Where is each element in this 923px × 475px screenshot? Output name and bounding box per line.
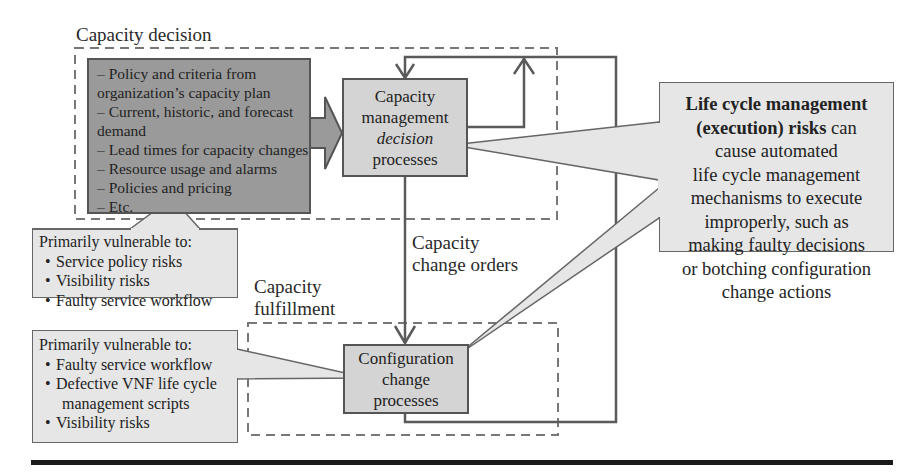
bullet-icon: • bbox=[45, 413, 56, 433]
callout-item: •Service policy risks bbox=[39, 252, 237, 272]
decision-self-loop-line bbox=[467, 58, 524, 127]
input-line: – Etc. bbox=[97, 197, 309, 216]
callout-item: •Faulty service workflow bbox=[39, 355, 237, 375]
bullet-icon: • bbox=[45, 291, 56, 311]
decision-line2: management bbox=[344, 107, 466, 128]
callout-item: •Visibility risks bbox=[39, 271, 237, 291]
bullet-icon: • bbox=[45, 374, 56, 394]
input-line: – Current, historic, and forecast bbox=[97, 102, 309, 121]
callout-item: •Faulty service workflow bbox=[39, 291, 237, 311]
bullet-icon: • bbox=[45, 252, 56, 272]
lcm-line: mechanisms to execute bbox=[660, 187, 893, 211]
decision-line3: decision bbox=[344, 128, 466, 149]
capacity-fulfillment-label: Capacity fulfillment bbox=[254, 276, 335, 320]
lcm-line: making faulty decisions bbox=[660, 234, 893, 258]
input-line: – Policy and criteria from bbox=[97, 64, 309, 83]
lcm-callout-pointer-decision bbox=[452, 122, 659, 180]
lcm-line: cause automated bbox=[660, 140, 893, 164]
fulfillment-vulnerability-callout: Primarily vulnerable to: •Faulty service… bbox=[32, 330, 238, 443]
decision-line4: processes bbox=[344, 149, 466, 170]
lcm-line: or botching configuration bbox=[660, 258, 893, 282]
callout-item: •Defective VNF life cycle bbox=[39, 374, 237, 394]
config-line2: change bbox=[345, 369, 467, 390]
bullet-icon: • bbox=[45, 271, 56, 291]
figure-bottom-rule bbox=[31, 460, 893, 465]
input-line: organization’s capacity plan bbox=[97, 83, 309, 102]
callout-pointer-joint bbox=[236, 350, 239, 378]
bullet-icon: • bbox=[45, 355, 56, 375]
input-line: – Resource usage and alarms bbox=[97, 159, 309, 178]
input-line: – Policies and pricing bbox=[97, 178, 309, 197]
lcm-pointer-joint bbox=[658, 123, 661, 217]
orders-line1: Capacity bbox=[412, 232, 518, 254]
fulfillment-label-line2: fulfillment bbox=[254, 298, 335, 320]
decision-line1: Capacity bbox=[344, 86, 466, 107]
capacity-change-orders-label: Capacity change orders bbox=[412, 232, 518, 276]
lcm-heading-line2: (execution) risks can bbox=[660, 117, 893, 141]
capacity-management-decision-process: Capacity management decision processes bbox=[342, 78, 468, 177]
configuration-change-process: Configuration change processes bbox=[343, 344, 469, 414]
callout-item-continuation: management scripts bbox=[39, 394, 237, 414]
decision-inputs-box: – Policy and criteria from organization’… bbox=[87, 58, 311, 214]
lcm-heading-line1: Life cycle management bbox=[660, 93, 893, 117]
callout-item: •Visibility risks bbox=[39, 413, 237, 433]
fulfillment-label-line1: Capacity bbox=[254, 276, 335, 298]
lcm-execution-risks-callout: Life cycle management (execution) risks … bbox=[659, 82, 894, 252]
callout-heading: Primarily vulnerable to: bbox=[39, 232, 237, 252]
lcm-line: life cycle management bbox=[660, 164, 893, 188]
input-line: – Lead times for capacity changes bbox=[97, 140, 309, 159]
lcm-line: change actions bbox=[660, 281, 893, 305]
inputs-block-arrow bbox=[310, 97, 342, 169]
config-line1: Configuration bbox=[345, 348, 467, 369]
orders-line2: change orders bbox=[412, 254, 518, 276]
lcm-line: improperly, such as bbox=[660, 211, 893, 235]
callout-top-border-left bbox=[32, 228, 131, 230]
callout-top-border-right bbox=[199, 228, 238, 230]
config-line3: processes bbox=[345, 390, 467, 411]
callout-heading: Primarily vulnerable to: bbox=[39, 335, 237, 355]
input-line: demand bbox=[97, 121, 309, 140]
decision-vulnerability-callout: Primarily vulnerable to: •Service policy… bbox=[32, 228, 238, 298]
capacity-decision-label: Capacity decision bbox=[76, 24, 212, 46]
